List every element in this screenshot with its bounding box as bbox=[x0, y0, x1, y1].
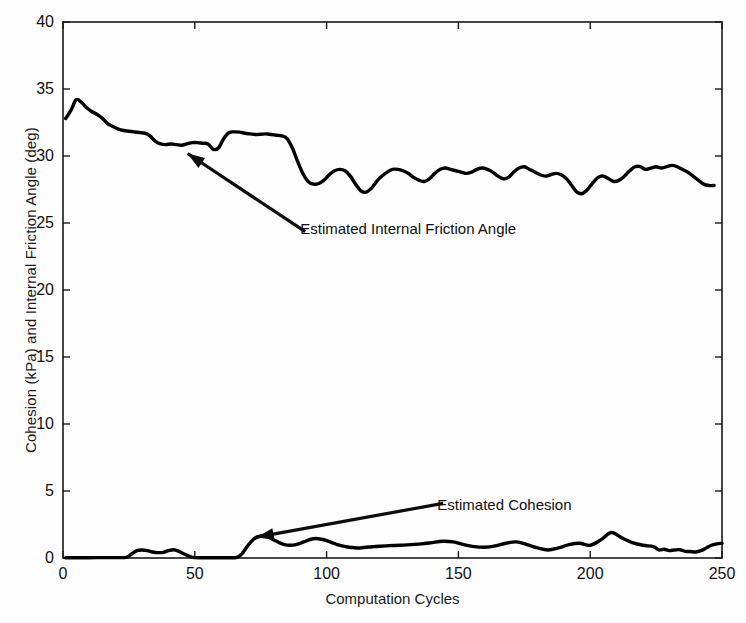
x-tick-label: 200 bbox=[577, 565, 604, 583]
data-series-layer bbox=[66, 99, 722, 557]
figure-canvas: 050100150200250 0510152025303540 Computa… bbox=[0, 0, 746, 623]
y-tick-label: 35 bbox=[36, 80, 54, 98]
x-axis-title: Computation Cycles bbox=[325, 590, 459, 607]
arrow-friction bbox=[188, 154, 306, 232]
x-tick-label: 150 bbox=[445, 565, 472, 583]
axis-ticks bbox=[63, 22, 722, 558]
y-tick-label: 5 bbox=[45, 482, 54, 500]
x-tick-label: 0 bbox=[59, 565, 68, 583]
annotation-arrows bbox=[188, 154, 444, 541]
series-line-friction-angle bbox=[66, 99, 714, 193]
y-axis-title: Cohesion (kPa) and Internal Friction Ang… bbox=[22, 127, 39, 453]
y-tick-label: 0 bbox=[45, 549, 54, 567]
annotation-cohesion-label: Estimated Cohesion bbox=[437, 496, 571, 513]
y-tick-label: 40 bbox=[36, 13, 54, 31]
series-line-cohesion bbox=[66, 533, 722, 558]
x-tick-label: 100 bbox=[313, 565, 340, 583]
chart-plot-area bbox=[0, 0, 746, 623]
axes-frame bbox=[63, 22, 722, 558]
annotation-friction-label: Estimated Internal Friction Angle bbox=[300, 220, 516, 237]
x-tick-label: 250 bbox=[709, 565, 736, 583]
x-tick-label: 50 bbox=[186, 565, 204, 583]
arrow-cohesion bbox=[257, 503, 443, 540]
